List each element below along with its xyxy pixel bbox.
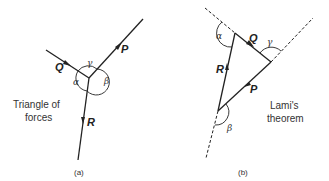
label-p-b: P — [250, 83, 258, 95]
label-q-b: Q — [249, 32, 258, 44]
title-line2-a: forces — [25, 112, 52, 123]
title-line2-b: theorem — [267, 113, 304, 124]
panel-a-force-system — [46, 19, 143, 160]
arrow-r-icon — [81, 117, 85, 124]
angle-gamma-b: γ — [267, 37, 273, 47]
angle-gamma-a: γ — [87, 58, 93, 68]
dashed-ext-p — [271, 18, 313, 62]
arrow-q-icon — [63, 60, 71, 66]
caption-b: (b) — [238, 168, 248, 177]
angle-alpha-b: α — [216, 31, 222, 41]
title-line1-a: Triangle of — [13, 99, 60, 110]
dashed-ext-r — [206, 111, 218, 158]
caption-a: (a) — [74, 168, 84, 177]
label-p-a: P — [121, 43, 129, 55]
diagram-canvas: Q P R γ β α Triangle of forces (a) Q P R… — [0, 0, 329, 181]
label-r-b: R — [216, 63, 224, 75]
title-line1-b: Lami's — [270, 100, 299, 111]
angle-beta-b: β — [226, 123, 232, 133]
angle-beta-a: β — [103, 76, 109, 86]
angle-arc-gamma-b — [260, 47, 281, 53]
label-q-a: Q — [55, 61, 64, 73]
dashed-ext-q — [205, 8, 235, 33]
label-r-a: R — [87, 116, 95, 128]
angle-alpha-a: α — [73, 77, 79, 87]
